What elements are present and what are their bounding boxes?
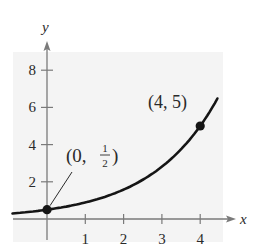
y-tick-label: 6 [29,99,37,115]
point-label-close-paren: ) [112,145,118,167]
data-point [196,121,205,130]
fraction-numerator: 1 [102,142,108,154]
x-axis-label: x [239,211,247,227]
x-tick-label: 4 [196,231,204,247]
y-tick-label: 2 [29,174,37,190]
chart: 12342468 (0, 12)(4, 5) x y [0,0,255,250]
point-label-0-half: (0, [66,145,87,167]
fraction-denominator: 2 [102,157,108,169]
x-tick-label: 1 [82,231,90,247]
x-tick-label: 3 [158,231,166,247]
point-label-4-5: (4, 5) [148,92,187,113]
y-axis-label: y [40,19,49,35]
data-point [42,205,51,214]
x-tick-label: 2 [120,231,128,247]
y-tick-label: 4 [29,137,37,153]
y-tick-label: 8 [29,62,37,78]
